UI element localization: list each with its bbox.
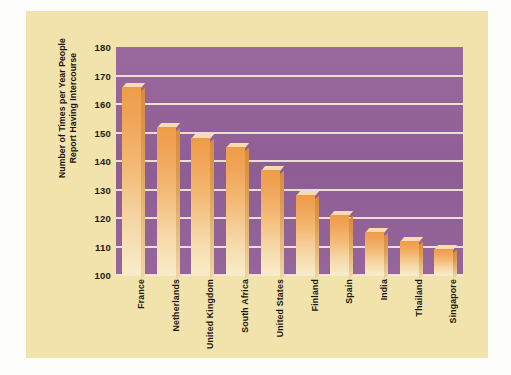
bar-side-face [210,139,214,279]
x-axis-tick-label: France [135,279,147,369]
y-axis-tick-label: 100 [78,270,111,281]
bar-side-face [384,233,388,279]
y-axis-tick-label: 170 [78,70,111,81]
gridline [116,75,463,77]
chart-figure: Number of Times per Year People Report H… [0,0,511,375]
bar-side-face [349,216,353,279]
bar-side-face [141,88,145,279]
bar [122,87,145,275]
y-axis-title-line-1: Number of Times per Year People [57,38,68,178]
bar [296,195,319,275]
x-axis-tick-label: United States [274,279,286,369]
y-axis-tick-label: 110 [78,241,111,252]
x-axis-tick-label: India [378,279,390,369]
bar-front-face [296,195,315,275]
gridline [116,103,463,105]
x-axis-labels: FranceNetherlandsUnited KingdomSouth Afr… [116,279,463,365]
y-axis-tick-label: 180 [78,42,111,53]
bar-front-face [226,147,245,275]
x-axis-tick-label: South Africa [239,279,251,369]
bar [226,147,249,275]
plot-area [116,47,463,275]
x-axis-tick-label: Spain [343,279,355,369]
bar-side-face [280,170,284,279]
bar-front-face [400,241,419,275]
bar-front-face [157,127,176,275]
y-axis-tick-label: 120 [78,213,111,224]
bar [434,249,457,275]
y-axis-tick-label: 160 [78,99,111,110]
bar-side-face [453,250,457,279]
y-axis-tick-label: 150 [78,127,111,138]
bar-side-face [419,242,423,279]
bar-side-face [315,196,319,279]
x-axis-tick-label: United Kingdom [204,279,216,369]
bar-front-face [122,87,141,275]
bar-side-face [176,128,180,279]
bar-front-face [330,215,349,275]
bar-front-face [434,249,453,275]
bar-front-face [261,170,280,275]
x-axis-tick-label: Thailand [413,279,425,369]
bar-side-face [245,148,249,279]
x-axis-tick-label: Netherlands [170,279,182,369]
y-axis-tick-label: 130 [78,184,111,195]
y-axis-ticks: 180170160150140130120110100 [78,47,111,275]
bar [157,127,180,275]
chart-panel: Number of Times per Year People Report H… [26,11,488,358]
bar [400,241,423,275]
bar [191,138,214,275]
bar-front-face [191,138,210,275]
bar-front-face [365,232,384,275]
x-axis-tick-label: Singapore [447,279,459,369]
bar [330,215,353,275]
bar [365,232,388,275]
x-axis-tick-label: Finland [309,279,321,369]
y-axis-tick-label: 140 [78,156,111,167]
bar [261,170,284,275]
